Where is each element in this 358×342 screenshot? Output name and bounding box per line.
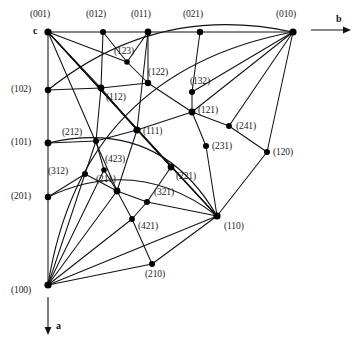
zone-line-100-312 xyxy=(48,174,85,285)
pole-label-221: (221) xyxy=(176,172,196,182)
zone-line-100-423 xyxy=(48,170,104,285)
pole-112[interactable] xyxy=(98,85,105,92)
pole-012[interactable] xyxy=(100,29,106,35)
pole-label-421: (421) xyxy=(138,222,158,232)
pole-label-231: (231) xyxy=(212,142,232,152)
pole-241[interactable] xyxy=(226,123,232,129)
pole-label-241: (241) xyxy=(236,122,256,132)
pole-111[interactable] xyxy=(133,126,140,133)
pole-021[interactable] xyxy=(197,29,203,35)
zone-line-421-321 xyxy=(132,202,147,219)
pole-110[interactable] xyxy=(213,212,220,219)
pole-label-102: (102) xyxy=(11,85,31,95)
arc-layer xyxy=(48,25,293,285)
zone-line-210-110 xyxy=(152,216,217,264)
a-axis-label: a xyxy=(56,321,61,331)
pole-421[interactable] xyxy=(129,216,135,222)
zone-line-123-122 xyxy=(127,62,148,83)
zone-line-212-112 xyxy=(96,88,101,141)
pole-label-312: (312) xyxy=(48,167,68,177)
pole-321[interactable] xyxy=(144,199,150,205)
pole-423[interactable] xyxy=(101,167,107,173)
pole-123[interactable] xyxy=(124,59,130,65)
pole-122[interactable] xyxy=(145,80,151,86)
pole-121[interactable] xyxy=(189,109,196,116)
zone-line-120-110 xyxy=(217,152,267,216)
pole-label-001: (001) xyxy=(30,10,50,20)
pole-010[interactable] xyxy=(289,28,296,35)
zone-line-122-121 xyxy=(148,83,192,112)
zone-line-102-112 xyxy=(48,88,101,90)
pole-label-011: (011) xyxy=(131,10,151,20)
pole-120[interactable] xyxy=(264,149,270,155)
pole-label-010: (010) xyxy=(276,10,296,20)
diagonal-001-110 xyxy=(48,32,217,216)
zone-line-112-122 xyxy=(101,83,148,88)
pole-label-321: (321) xyxy=(154,188,174,198)
pole-312[interactable] xyxy=(82,171,88,177)
pole-label-201: (201) xyxy=(11,192,31,202)
pole-211[interactable] xyxy=(114,188,121,195)
pole-label-212: (212) xyxy=(62,128,82,138)
zone-line-100-210 xyxy=(48,264,152,285)
edge-layer xyxy=(48,32,293,285)
b-axis-arrowhead xyxy=(343,27,351,34)
pole-label-211: (211) xyxy=(96,175,116,185)
axis-layer xyxy=(45,27,351,335)
pole-label-121: (121) xyxy=(198,106,218,116)
pole-201[interactable] xyxy=(45,194,51,200)
pole-label-112: (112) xyxy=(106,93,126,103)
pole-label-210: (210) xyxy=(145,270,165,280)
pole-101[interactable] xyxy=(45,140,52,147)
pole-label-111: (111) xyxy=(143,127,162,137)
pole-label-100: (100) xyxy=(11,286,31,296)
pole-210[interactable] xyxy=(149,261,155,267)
pole-231[interactable] xyxy=(203,143,209,149)
pole-label-012: (012) xyxy=(86,10,106,20)
zone-line-012-112 xyxy=(101,32,103,88)
c-axis-label: c xyxy=(33,26,37,36)
pole-102[interactable] xyxy=(45,87,51,93)
zone-line-121-231 xyxy=(192,112,206,146)
b-axis-label: b xyxy=(336,14,342,24)
pole-label-110: (110) xyxy=(224,222,244,232)
outer-great-circle xyxy=(48,32,293,285)
pole-label-101: (101) xyxy=(11,138,31,148)
pole-label-021: (021) xyxy=(183,10,203,20)
pole-label-423: (423) xyxy=(105,155,125,165)
pole-132[interactable] xyxy=(189,89,195,95)
pole-label-122: (122) xyxy=(148,68,168,78)
pole-label-132: (132) xyxy=(190,77,210,87)
pole-001[interactable] xyxy=(44,28,51,35)
zone-line-212-423 xyxy=(96,141,104,170)
pole-label-123: (123) xyxy=(114,47,134,57)
a-axis-arrowhead xyxy=(45,327,52,335)
pole-100[interactable] xyxy=(44,281,51,288)
pole-212[interactable] xyxy=(93,138,99,144)
pole-011[interactable] xyxy=(145,29,152,36)
pole-label-120: (120) xyxy=(273,148,293,158)
projection-figure: (001)(012)(011)(021)(010)(102)(101)(201)… xyxy=(0,0,358,342)
pole-221[interactable] xyxy=(168,164,175,171)
zone-circle-102-010 xyxy=(48,25,293,90)
